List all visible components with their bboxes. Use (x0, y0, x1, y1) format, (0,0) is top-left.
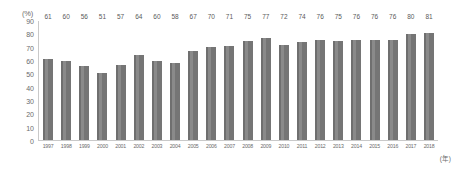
bar-rect (370, 40, 380, 140)
x-axis-label: 2015 (366, 143, 384, 149)
bar-rect (333, 41, 343, 140)
bar-item[interactable]: 56 (75, 21, 93, 140)
bar-rect (224, 46, 234, 140)
bar-rect (188, 51, 198, 140)
bar-item[interactable]: 60 (57, 21, 75, 140)
bar-value-label: 60 (63, 13, 70, 20)
x-axis-line (38, 140, 438, 141)
bar-value-label: 58 (171, 13, 178, 20)
bar-rect (406, 34, 416, 140)
y-axis-tick: 60 (26, 58, 34, 65)
bar-value-label: 70 (208, 13, 215, 20)
x-axis-label: 2011 (293, 143, 311, 149)
bar-rect (279, 45, 289, 140)
bar-value-label: 72 (280, 13, 287, 20)
bar-item[interactable]: 76 (384, 21, 402, 140)
bar-rect (134, 55, 144, 140)
bar-value-label: 56 (81, 13, 88, 20)
bar-value-label: 76 (353, 13, 360, 20)
y-axis-tick: 50 (26, 71, 34, 78)
bar-item[interactable]: 51 (93, 21, 111, 140)
y-axis-tick: 20 (26, 111, 34, 118)
y-axis-tick: 90 (26, 18, 34, 25)
y-axis-tick: 0 (30, 138, 34, 145)
x-axis-label: 2007 (220, 143, 238, 149)
bar-item[interactable]: 80 (402, 21, 420, 140)
bar-item[interactable]: 74 (293, 21, 311, 140)
bar-value-label: 76 (389, 13, 396, 20)
x-axis-label: 2018 (420, 143, 438, 149)
x-axis-label: 1998 (57, 143, 75, 149)
x-axis-label: 2002 (130, 143, 148, 149)
bar-rect (351, 40, 361, 140)
bar-rect (261, 38, 271, 140)
x-axis-label: 2014 (347, 143, 365, 149)
bar-rect (315, 40, 325, 140)
x-axis-label: 2001 (112, 143, 130, 149)
bar-item[interactable]: 71 (220, 21, 238, 140)
bar-value-label: 64 (135, 13, 142, 20)
bar-item[interactable]: 75 (239, 21, 257, 140)
x-axis-label: 2013 (329, 143, 347, 149)
bar-value-label: 75 (335, 13, 342, 20)
bar-value-label: 61 (44, 13, 51, 20)
bar-item[interactable]: 70 (202, 21, 220, 140)
bar-rect (206, 47, 216, 140)
x-axis-label: 2004 (166, 143, 184, 149)
bar-rect (170, 63, 180, 140)
y-axis-tick: 10 (26, 124, 34, 131)
bar-rect (116, 65, 126, 140)
bar-value-label: 74 (298, 13, 305, 20)
bar-rect (243, 41, 253, 140)
x-axis-label: 2008 (239, 143, 257, 149)
y-axis-tick: 70 (26, 44, 34, 51)
bar-chart: (%) 0102030405060708090 6160565157646058… (0, 0, 455, 169)
x-axis-label: 2009 (257, 143, 275, 149)
bar-rect (388, 40, 398, 140)
x-axis-label: 2005 (184, 143, 202, 149)
bar-item[interactable]: 57 (112, 21, 130, 140)
bar-item[interactable]: 61 (39, 21, 57, 140)
x-axis-labels: 1997199819992000200120022003200420052006… (39, 143, 438, 149)
bar-value-label: 77 (262, 13, 269, 20)
y-axis-tick: 80 (26, 31, 34, 38)
bar-value-label: 67 (190, 13, 197, 20)
bar-value-label: 76 (317, 13, 324, 20)
bar-item[interactable]: 75 (329, 21, 347, 140)
bar-value-label: 75 (244, 13, 251, 20)
bar-rect (61, 61, 71, 140)
bar-rect (79, 66, 89, 140)
bar-item[interactable]: 64 (130, 21, 148, 140)
bar-rect (424, 33, 434, 140)
bar-item[interactable]: 67 (184, 21, 202, 140)
bar-item[interactable]: 58 (166, 21, 184, 140)
bar-value-label: 80 (407, 13, 414, 20)
bar-value-label: 71 (226, 13, 233, 20)
x-axis-label: 2012 (311, 143, 329, 149)
bar-series: 6160565157646058677071757772747675767676… (39, 21, 438, 140)
bar-item[interactable]: 77 (257, 21, 275, 140)
x-axis-label: 1997 (39, 143, 57, 149)
bar-item[interactable]: 72 (275, 21, 293, 140)
x-axis-label: 2017 (402, 143, 420, 149)
x-axis-label: 2006 (202, 143, 220, 149)
bar-item[interactable]: 76 (347, 21, 365, 140)
bar-rect (297, 42, 307, 140)
bar-value-label: 57 (117, 13, 124, 20)
bar-value-label: 51 (99, 13, 106, 20)
bar-rect (43, 59, 53, 140)
bar-item[interactable]: 81 (420, 21, 438, 140)
x-axis-label: 2003 (148, 143, 166, 149)
bar-value-label: 81 (425, 13, 432, 20)
bar-item[interactable]: 76 (311, 21, 329, 140)
x-axis-label: 2016 (384, 143, 402, 149)
x-axis-label: 2000 (93, 143, 111, 149)
y-axis-tick: 40 (26, 84, 34, 91)
bar-value-label: 60 (153, 13, 160, 20)
plot-area: 0102030405060708090 61605651576460586770… (38, 21, 438, 141)
bar-rect (97, 73, 107, 140)
x-axis-label: 1999 (75, 143, 93, 149)
bar-item[interactable]: 60 (148, 21, 166, 140)
bar-item[interactable]: 76 (366, 21, 384, 140)
bar-value-label: 76 (371, 13, 378, 20)
